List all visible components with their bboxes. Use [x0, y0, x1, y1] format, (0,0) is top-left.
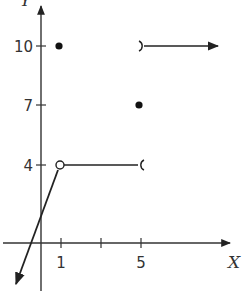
filled-dot-1-10	[55, 42, 62, 49]
series-horizontal-ray-y10	[139, 41, 218, 51]
piecewise-function-graph: 10 7 4 Y 1 5 X	[0, 0, 247, 299]
y-tick-label-7: 7	[23, 97, 33, 115]
open-paren-marker	[139, 41, 142, 51]
series-linear-segment	[16, 170, 58, 284]
x-axis: 1 5 X	[3, 238, 241, 272]
y-axis-label: Y	[20, 0, 33, 10]
open-circle-marker	[56, 161, 64, 169]
x-tick-label-1: 1	[56, 254, 66, 272]
y-tick-label-10: 10	[14, 38, 33, 56]
open-paren-marker	[141, 160, 144, 170]
y-tick-label-4: 4	[23, 157, 33, 175]
x-tick-label-5: 5	[136, 254, 146, 272]
series-isolated-points	[55, 42, 142, 108]
filled-dot-5-7	[135, 101, 142, 108]
x-axis-label: X	[226, 252, 241, 272]
series-horizontal-segment-y4	[56, 160, 144, 170]
